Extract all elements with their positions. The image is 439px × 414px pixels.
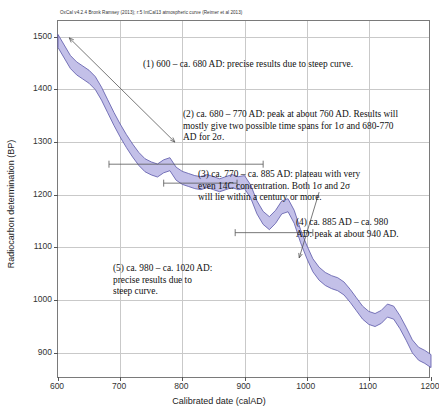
x-tick-label: 1000 xyxy=(296,381,315,391)
y-tick-label: 1100 xyxy=(0,241,52,251)
x-tick-label: 1200 xyxy=(421,381,439,391)
region-2-span xyxy=(109,161,263,168)
note-1: (1) 600 – ca. 680 AD: precise results du… xyxy=(143,59,353,71)
y-tick-label: 1000 xyxy=(0,294,52,304)
oxcal-credit-line: OxCal v4.2.4 Bronk Ramsey (2013); r:5 In… xyxy=(60,10,242,15)
x-tick-label: 1100 xyxy=(359,381,377,391)
x-axis-title: Calibrated date (calAD) xyxy=(0,396,438,406)
note-2: (2) ca. 680 – 770 AD: peak at about 760 … xyxy=(183,109,398,144)
note-5: (5) ca. 980 – ca. 1020 AD: precise resul… xyxy=(113,263,212,298)
y-tick-label: 1200 xyxy=(0,189,52,199)
y-tick-label: 1300 xyxy=(0,136,52,146)
x-tick-label: 600 xyxy=(50,381,64,391)
x-tick-label: 800 xyxy=(174,381,188,391)
x-tick-label: 700 xyxy=(112,381,126,391)
y-tick-label: 1400 xyxy=(0,83,52,93)
note-3: (3) ca. 770 – ca. 885 AD: plateau with v… xyxy=(198,169,360,204)
x-tick-label: 900 xyxy=(236,381,250,391)
y-tick-label: 1500 xyxy=(0,31,52,41)
plot-area: (1) 600 – ca. 680 AD: precise results du… xyxy=(57,20,430,378)
note-4: (4) ca. 885 AD – ca. 980 AD: peak at abo… xyxy=(296,217,399,240)
y-tick-label: 900 xyxy=(0,347,52,357)
